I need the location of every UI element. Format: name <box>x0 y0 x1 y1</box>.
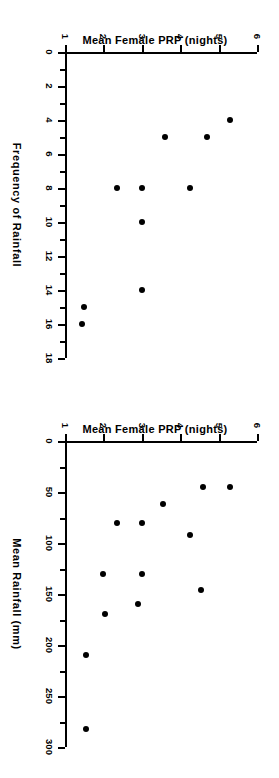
x-tick-label: 18 <box>44 353 55 364</box>
plot-area-rainfall: 050100150200250300123456 Mean Rainfall (… <box>0 389 279 778</box>
x-minor-tick <box>60 103 65 105</box>
y-tick <box>103 45 105 52</box>
x-minor-tick <box>60 239 65 241</box>
x-tick <box>58 120 65 122</box>
data-point <box>187 532 193 538</box>
data-point <box>198 587 204 593</box>
x-tick <box>58 645 65 647</box>
x-tick <box>58 154 65 156</box>
x-tick <box>58 492 65 494</box>
plot-area-frequency: 024681012141618123456 Frequency of Rainf… <box>0 0 279 389</box>
data-point <box>79 321 85 327</box>
y-tick <box>219 45 221 52</box>
data-point <box>83 652 89 658</box>
data-point <box>81 304 87 310</box>
data-point <box>114 520 120 526</box>
axes-rainfall: 050100150200250300123456 <box>65 441 257 747</box>
data-point <box>139 219 145 225</box>
data-point <box>227 117 233 123</box>
x-tick-label: 150 <box>44 586 55 602</box>
x-tick-label: 6 <box>44 151 55 156</box>
x-tick-label: 200 <box>44 637 55 653</box>
x-minor-tick <box>60 69 65 71</box>
x-minor-tick <box>60 307 65 309</box>
x-minor-tick <box>60 205 65 207</box>
x-minor-tick <box>60 341 65 343</box>
y-axis-line <box>65 52 257 54</box>
x-tick-label: 100 <box>44 535 55 551</box>
x-minor-tick <box>60 722 65 724</box>
x-minor-tick <box>60 137 65 139</box>
x-tick-label: 14 <box>44 285 55 296</box>
x-tick-label: 0 <box>44 438 55 443</box>
x-tick <box>58 222 65 224</box>
data-point <box>83 726 89 732</box>
x-tick-label: 50 <box>44 487 55 498</box>
x-tick <box>58 324 65 326</box>
axes-frequency: 024681012141618123456 <box>65 52 257 358</box>
data-point <box>139 571 145 577</box>
x-tick <box>58 52 65 54</box>
data-point <box>227 484 233 490</box>
data-point <box>100 571 106 577</box>
x-tick <box>58 290 65 292</box>
data-point <box>114 185 120 191</box>
data-point <box>200 484 206 490</box>
x-minor-tick <box>60 467 65 469</box>
x-tick-label: 12 <box>44 251 55 262</box>
panel-frequency-of-rainfall: 024681012141618123456 Frequency of Rainf… <box>0 0 279 389</box>
data-point <box>204 134 210 140</box>
panel-mean-rainfall: 050100150200250300123456 Mean Rainfall (… <box>0 389 279 778</box>
x-tick-label: 300 <box>44 739 55 755</box>
x-tick <box>58 188 65 190</box>
x-tick-label: 8 <box>44 185 55 190</box>
data-point <box>135 601 141 607</box>
data-point <box>160 501 166 507</box>
y-tick <box>65 45 67 52</box>
x-axis-title: Frequency of Rainfall <box>11 52 23 358</box>
figure-page: 024681012141618123456 Frequency of Rainf… <box>0 0 279 778</box>
data-point <box>102 611 108 617</box>
x-axis-line <box>65 52 67 358</box>
x-axis-title: Mean Rainfall (mm) <box>11 441 23 747</box>
y-axis-line <box>65 441 257 443</box>
y-axis-title: Mean Female PRP (nights) <box>55 423 255 435</box>
x-tick <box>58 543 65 545</box>
y-tick <box>180 45 182 52</box>
y-tick <box>180 434 182 441</box>
x-tick <box>58 256 65 258</box>
x-minor-tick <box>60 620 65 622</box>
x-tick-label: 0 <box>44 49 55 54</box>
y-tick <box>142 45 144 52</box>
data-point <box>162 134 168 140</box>
data-point <box>187 185 193 191</box>
x-minor-tick <box>60 671 65 673</box>
x-minor-tick <box>60 569 65 571</box>
x-axis-line <box>65 441 67 747</box>
x-tick-label: 2 <box>44 83 55 88</box>
x-minor-tick <box>60 273 65 275</box>
y-tick <box>219 434 221 441</box>
x-tick-label: 16 <box>44 319 55 330</box>
y-tick <box>65 434 67 441</box>
x-tick <box>58 747 65 749</box>
y-tick <box>257 45 259 52</box>
x-tick <box>58 696 65 698</box>
data-point <box>139 287 145 293</box>
data-point <box>139 520 145 526</box>
x-tick <box>58 86 65 88</box>
x-tick-label: 250 <box>44 688 55 704</box>
x-minor-tick <box>60 518 65 520</box>
x-tick-label: 10 <box>44 217 55 228</box>
x-tick <box>58 441 65 443</box>
y-tick <box>103 434 105 441</box>
x-tick <box>58 594 65 596</box>
data-point <box>139 185 145 191</box>
x-tick <box>58 358 65 360</box>
y-tick <box>257 434 259 441</box>
y-tick <box>142 434 144 441</box>
x-minor-tick <box>60 171 65 173</box>
x-tick-label: 4 <box>44 117 55 122</box>
y-axis-title: Mean Female PRP (nights) <box>55 34 255 46</box>
